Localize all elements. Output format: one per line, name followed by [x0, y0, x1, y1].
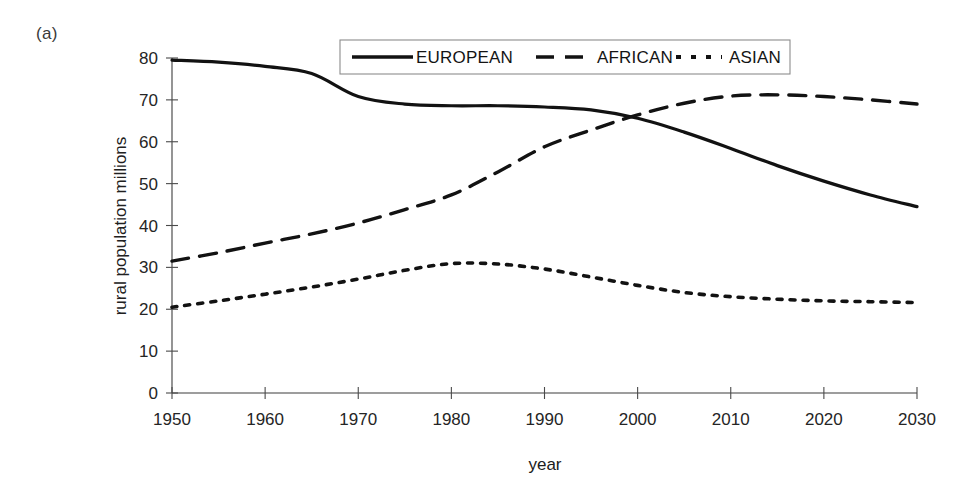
y-tick-label: 0	[149, 384, 158, 403]
line-chart: 01020304050607080 1950196019701980199020…	[0, 0, 976, 494]
y-tick-label: 50	[139, 175, 158, 194]
chart-series-group	[172, 60, 917, 307]
x-tick-label: 1950	[153, 410, 191, 429]
y-tick-label: 40	[139, 217, 158, 236]
series-line-asian	[172, 263, 917, 307]
y-tick-label: 60	[139, 133, 158, 152]
legend-label-european: EUROPEAN	[416, 48, 513, 67]
x-tick-label: 1980	[432, 410, 470, 429]
y-tick-label: 70	[139, 91, 158, 110]
y-tick-label: 30	[139, 258, 158, 277]
x-tick-label: 1970	[339, 410, 377, 429]
x-tick-label: 2030	[898, 410, 936, 429]
chart-legend: EUROPEAN AFRICAN ASIAN	[340, 40, 790, 74]
legend-label-african: AFRICAN	[597, 48, 673, 67]
y-tick-label: 80	[139, 49, 158, 68]
x-tick-label: 2020	[805, 410, 843, 429]
x-tick-label: 1960	[246, 410, 284, 429]
series-line-european	[172, 60, 917, 207]
legend-label-asian: ASIAN	[729, 48, 781, 67]
x-axis-title: year	[528, 455, 561, 474]
figure-panel: (a) 01020304050607080 195019601970198019…	[0, 0, 976, 494]
series-line-african	[172, 95, 917, 261]
x-tick-label: 2010	[712, 410, 750, 429]
y-tick-label: 20	[139, 300, 158, 319]
y-tick-label: 10	[139, 342, 158, 361]
x-tick-label: 2000	[619, 410, 657, 429]
y-axis-title: rural population millions	[111, 137, 130, 316]
x-tick-label: 1990	[526, 410, 564, 429]
